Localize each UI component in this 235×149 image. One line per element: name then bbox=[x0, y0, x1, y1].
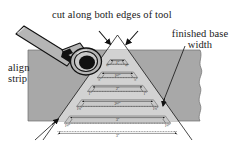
band-right-label-3: 1" bbox=[144, 92, 147, 96]
caption-finished-base-width: finished base width bbox=[168, 28, 232, 51]
band-width-label-3: 2" bbox=[116, 87, 119, 91]
band-left-label-4: 1¼" bbox=[77, 107, 82, 111]
caption-align-strip: align strip bbox=[8, 62, 50, 85]
band-left-label-3: 1" bbox=[89, 92, 92, 96]
band-right-label-2: ¾" bbox=[134, 78, 138, 82]
caption-cut-along-edges: cut along both edges of tool bbox=[52, 9, 172, 20]
band-right-label-5: 1½" bbox=[165, 124, 170, 128]
baseline-width-label: 3" bbox=[116, 134, 119, 138]
band-width-label-4: 2½" bbox=[115, 102, 121, 106]
band-right-label-4: 1¼" bbox=[153, 107, 158, 111]
apex-arrows bbox=[99, 31, 138, 45]
band-right-label-1: ½" bbox=[125, 64, 129, 68]
band-width-label-5: 3" bbox=[116, 118, 119, 122]
align-strip-leader bbox=[35, 119, 59, 140]
band-width-label-2: 1½" bbox=[115, 74, 121, 78]
band-left-label-1: ½" bbox=[106, 64, 110, 68]
band-left-label-5: 1½" bbox=[65, 124, 70, 128]
band-width-label-1: 1" bbox=[116, 61, 119, 65]
band-left-label-2: ¾" bbox=[98, 78, 102, 82]
diagram-canvas: 1" 1½" 2" 2½" 3" 3" ½" ½" ¾" ¾" 1" 1" 1¼… bbox=[0, 0, 235, 149]
